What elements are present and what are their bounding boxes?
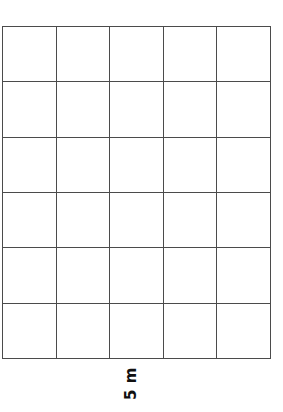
grid-cell: [57, 248, 111, 303]
grid-cell: [3, 82, 57, 137]
grid-cell: [110, 27, 164, 82]
grid-cell: [217, 248, 271, 303]
grid-cell: [3, 138, 57, 193]
grid-cell: [3, 193, 57, 248]
grid-cell: [57, 82, 111, 137]
grid-cell: [217, 27, 271, 82]
grid-cell: [3, 27, 57, 82]
grid-cell: [217, 193, 271, 248]
grid-cell: [164, 82, 218, 137]
grid-cell: [110, 304, 164, 359]
grid-cell: [3, 304, 57, 359]
grid-cell: [57, 27, 111, 82]
grid-cell: [164, 248, 218, 303]
grid-cell: [217, 304, 271, 359]
grid-cell: [110, 193, 164, 248]
grid-container: [2, 26, 271, 359]
grid-cell: [217, 138, 271, 193]
grid-cell: [164, 304, 218, 359]
diagram-page: 5 m: [0, 0, 283, 412]
grid-cell: [164, 193, 218, 248]
grid-cell: [3, 248, 57, 303]
measurement-grid: [2, 26, 271, 359]
grid-cell: [57, 304, 111, 359]
grid-cell: [110, 82, 164, 137]
grid-cell: [57, 193, 111, 248]
grid-cell: [164, 138, 218, 193]
grid-cell: [57, 138, 111, 193]
grid-cell: [110, 138, 164, 193]
grid-cell: [164, 27, 218, 82]
grid-cell: [217, 82, 271, 137]
width-dimension-label-text: 5 m: [124, 367, 139, 400]
grid-cell: [110, 248, 164, 303]
